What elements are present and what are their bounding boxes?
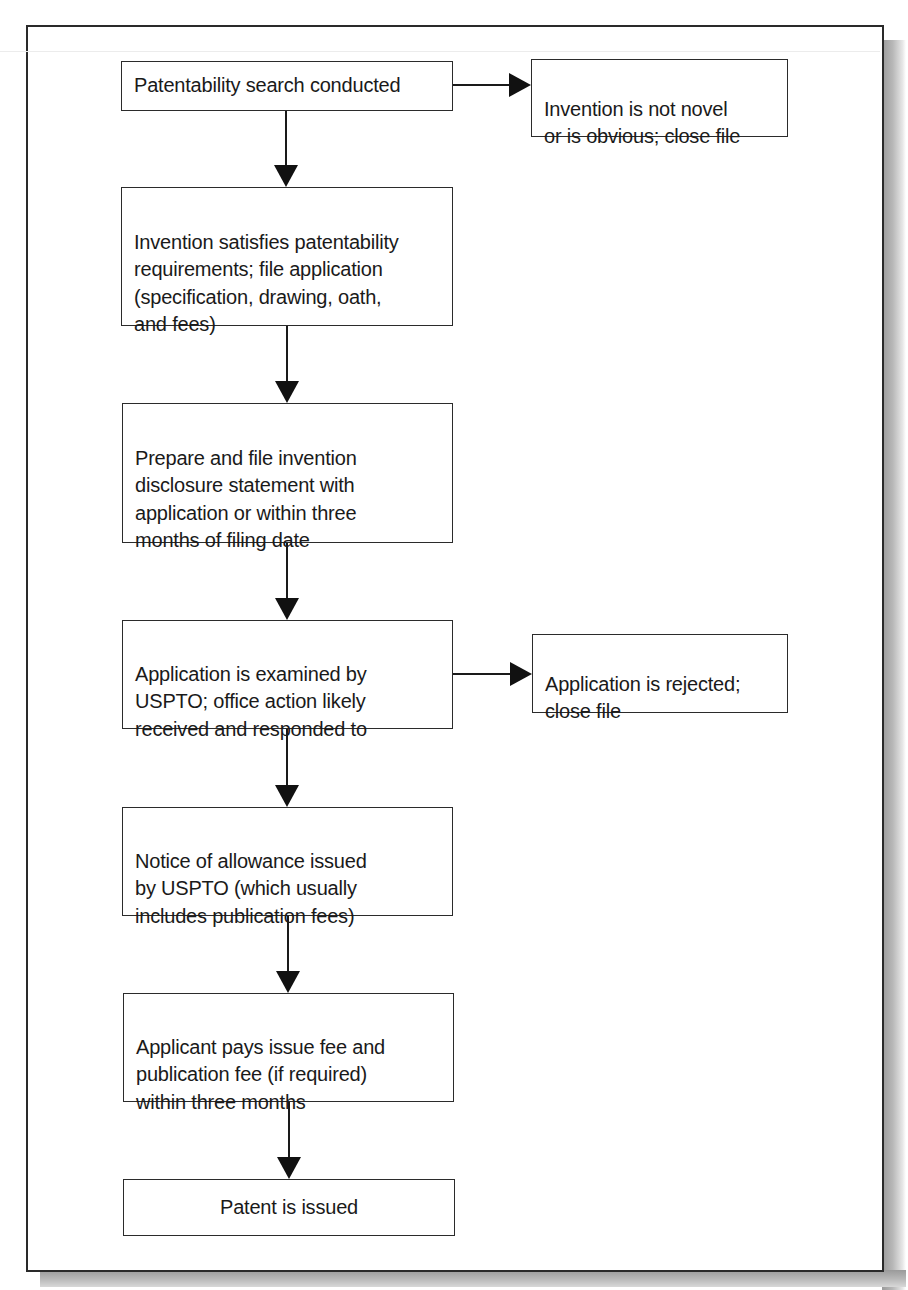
frame-shadow-bottom [40, 1270, 906, 1287]
edge-file-application-to-disclosure [286, 326, 288, 383]
arrowhead-down-icon [275, 381, 299, 403]
node-not-novel-close-file: Invention is not novel or is obvious; cl… [531, 59, 788, 137]
arrowhead-down-icon [274, 165, 298, 187]
node-applicant-pays-fee: Applicant pays issue fee and publication… [123, 993, 454, 1102]
node-label: Invention satisfies patentability requir… [134, 231, 399, 336]
edge-pays-fee-to-issued [288, 1102, 290, 1159]
edge-disclosure-to-examined [286, 543, 288, 600]
arrowhead-down-icon [275, 598, 299, 620]
node-label: Prepare and file invention disclosure st… [135, 447, 357, 552]
node-label: Invention is not novel or is obvious; cl… [544, 98, 740, 148]
node-application-examined: Application is examined by USPTO; office… [122, 620, 453, 729]
node-label: Notice of allowance issued by USPTO (whi… [135, 850, 367, 927]
edge-examined-to-allowance [286, 729, 288, 787]
arrowhead-down-icon [277, 1157, 301, 1179]
node-notice-of-allowance: Notice of allowance issued by USPTO (whi… [122, 807, 453, 916]
edge-examined-to-rejected [453, 673, 511, 675]
edge-search-to-file-application [285, 111, 287, 167]
node-file-application: Invention satisfies patentability requir… [121, 187, 453, 326]
arrowhead-right-icon [510, 662, 532, 686]
node-label: Applicant pays issue fee and publication… [136, 1036, 385, 1113]
node-patentability-search: Patentability search conducted [121, 61, 453, 111]
node-application-rejected: Application is rejected; close file [532, 634, 788, 713]
node-patent-issued: Patent is issued [123, 1179, 455, 1236]
edge-search-to-not-novel [453, 84, 511, 86]
arrowhead-down-icon [275, 785, 299, 807]
arrowhead-right-icon [509, 73, 531, 97]
node-label: Application is examined by USPTO; office… [135, 663, 367, 740]
arrowhead-down-icon [276, 971, 300, 993]
node-label: Patent is issued [220, 1194, 358, 1222]
node-disclosure-statement: Prepare and file invention disclosure st… [122, 403, 453, 543]
frame-shadow-right [882, 40, 906, 1290]
edge-allowance-to-pays-fee [287, 916, 289, 973]
scan-artifact-line [0, 51, 880, 52]
node-label: Patentability search conducted [134, 72, 400, 100]
